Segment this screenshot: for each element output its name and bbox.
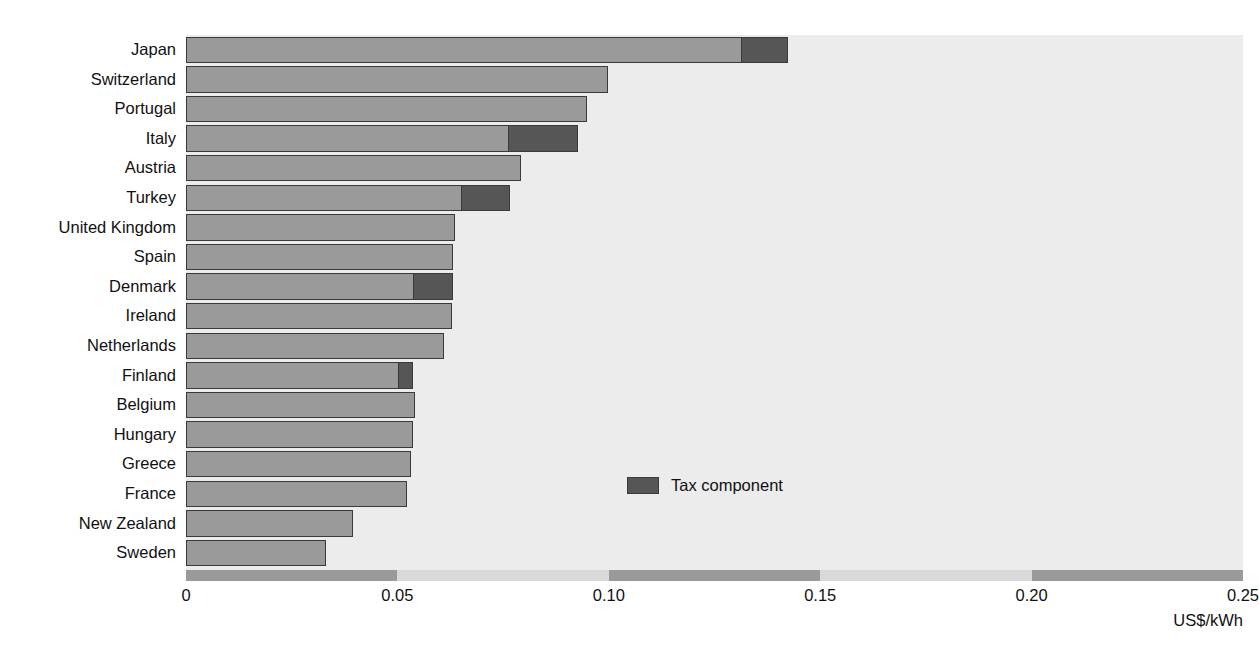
axis-band-segment <box>397 570 608 581</box>
bar-row <box>186 272 1243 302</box>
x-tick-label: 0.05 <box>381 586 413 605</box>
bar-segment-base <box>186 155 521 182</box>
bar-segment-base <box>186 540 326 567</box>
bar-segment-base <box>186 451 411 478</box>
bar-segment-tax <box>742 37 789 64</box>
category-label: Spain <box>0 242 176 272</box>
bar-row <box>186 301 1243 331</box>
x-tick-label: 0.20 <box>1016 586 1048 605</box>
bar-row <box>186 449 1243 479</box>
bar-segment-base <box>186 392 415 419</box>
bar-segment-tax <box>399 362 413 389</box>
stacked-bar <box>186 362 413 389</box>
stacked-bar <box>186 214 455 241</box>
category-label: Ireland <box>0 301 176 331</box>
stacked-bar <box>186 244 453 271</box>
bar-row <box>186 65 1243 95</box>
category-axis-labels: JapanSwitzerlandPortugalItalyAustriaTurk… <box>0 35 176 572</box>
bar-segment-base <box>186 333 444 360</box>
category-label: Austria <box>0 153 176 183</box>
stacked-bar <box>186 155 521 182</box>
stacked-bar <box>186 481 407 508</box>
x-axis-unit-label: US$/kWh <box>1173 611 1243 630</box>
category-label: Turkey <box>0 183 176 213</box>
stacked-bar <box>186 66 608 93</box>
stacked-bar <box>186 540 326 567</box>
category-label: Denmark <box>0 272 176 302</box>
stacked-bar <box>186 37 788 64</box>
chart-legend: Tax component <box>627 476 783 495</box>
bar-row <box>186 153 1243 183</box>
stacked-bar <box>186 273 453 300</box>
bar-row <box>186 124 1243 154</box>
bar-segment-base <box>186 185 462 212</box>
plot-area: Tax component <box>186 35 1243 572</box>
bar-row <box>186 509 1243 539</box>
category-label: Hungary <box>0 420 176 450</box>
stacked-bar <box>186 303 452 330</box>
category-label: Portugal <box>0 94 176 124</box>
bar-segment-base <box>186 303 452 330</box>
stacked-bar <box>186 451 411 478</box>
bar-row <box>186 331 1243 361</box>
stacked-bar <box>186 125 578 152</box>
stacked-bar <box>186 510 353 537</box>
bar-segment-tax <box>462 185 510 212</box>
category-label: Greece <box>0 449 176 479</box>
x-tick-label: 0.15 <box>804 586 836 605</box>
x-axis-tick-labels: 00.050.100.150.200.25 <box>0 586 1258 610</box>
stacked-bar <box>186 185 510 212</box>
category-label: Sweden <box>0 538 176 568</box>
bar-row <box>186 420 1243 450</box>
x-axis-band <box>186 570 1243 581</box>
bar-row <box>186 35 1243 65</box>
bar-row <box>186 361 1243 391</box>
bar-segment-base <box>186 244 453 271</box>
bar-segment-base <box>186 481 407 508</box>
category-label: Japan <box>0 35 176 65</box>
bar-segment-tax <box>509 125 578 152</box>
bar-segment-base <box>186 273 414 300</box>
legend-swatch-tax-component <box>627 477 659 494</box>
category-label: Finland <box>0 361 176 391</box>
bar-segment-base <box>186 510 353 537</box>
bar-segment-tax <box>414 273 453 300</box>
stacked-bar <box>186 421 413 448</box>
stacked-bar <box>186 333 444 360</box>
bar-segment-base <box>186 362 399 389</box>
bar-segment-base <box>186 214 455 241</box>
category-label: Belgium <box>0 390 176 420</box>
bar-segment-base <box>186 421 413 448</box>
bar-segment-base <box>186 37 742 64</box>
category-label: United Kingdom <box>0 213 176 243</box>
bar-segment-base <box>186 125 509 152</box>
x-tick-label: 0 <box>181 586 190 605</box>
category-label: France <box>0 479 176 509</box>
bar-row <box>186 242 1243 272</box>
axis-band-segment <box>820 570 1031 581</box>
bar-row <box>186 94 1243 124</box>
bar-row <box>186 213 1243 243</box>
bar-row <box>186 538 1243 568</box>
stacked-bar <box>186 392 415 419</box>
x-tick-label: 0.25 <box>1227 586 1259 605</box>
bar-segment-base <box>186 66 608 93</box>
bar-row <box>186 183 1243 213</box>
category-label: New Zealand <box>0 509 176 539</box>
x-tick-label: 0.10 <box>593 586 625 605</box>
category-label: Switzerland <box>0 65 176 95</box>
stacked-bar <box>186 96 587 123</box>
category-label: Netherlands <box>0 331 176 361</box>
axis-band-segment <box>1032 570 1243 581</box>
axis-band-segment <box>609 570 820 581</box>
axis-band-segment <box>186 570 397 581</box>
bar-row <box>186 390 1243 420</box>
bar-segment-base <box>186 96 587 123</box>
legend-label-tax-component: Tax component <box>671 476 783 495</box>
category-label: Italy <box>0 124 176 154</box>
